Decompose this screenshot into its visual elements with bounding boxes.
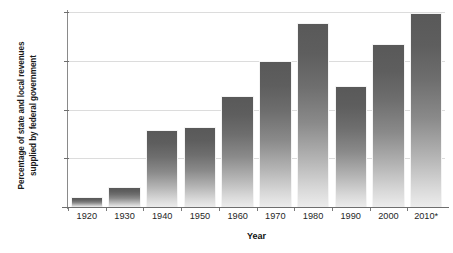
x-tick-mark	[219, 208, 220, 211]
bar[interactable]	[71, 197, 103, 207]
bar[interactable]	[221, 96, 253, 207]
x-tick-mark	[181, 208, 182, 211]
y-tick-mark	[64, 61, 69, 62]
bars-layer	[68, 12, 445, 207]
x-tick-mark	[143, 208, 144, 211]
x-tick-label: 2000	[370, 211, 408, 221]
x-tick-label: 1920	[68, 211, 106, 221]
x-tick-label: 1950	[181, 211, 219, 221]
bar[interactable]	[372, 44, 404, 207]
x-tick-mark	[407, 208, 408, 211]
x-tick-mark	[106, 208, 107, 211]
x-tick-label: 1970	[257, 211, 295, 221]
x-tick-label: 1980	[294, 211, 332, 221]
y-axis-title: Percentage of state and local revenues s…	[16, 16, 39, 216]
bar[interactable]	[410, 13, 442, 207]
y-axis-title-line-1: Percentage of state and local revenues	[16, 16, 28, 216]
y-tick-mark	[64, 158, 69, 159]
x-tick-label: 1960	[219, 211, 257, 221]
x-axis-title: Year	[68, 231, 445, 241]
bar[interactable]	[297, 23, 329, 207]
x-tick-label: 1930	[106, 211, 144, 221]
bar[interactable]	[146, 130, 178, 207]
bar[interactable]	[108, 187, 140, 207]
bar-chart: Percentage of state and local revenues s…	[0, 0, 453, 253]
x-tick-mark	[257, 208, 258, 211]
x-axis-line	[62, 207, 449, 208]
y-tick-mark	[64, 12, 69, 13]
bar[interactable]	[259, 61, 291, 207]
x-tick-mark	[294, 208, 295, 211]
x-tick-label: 1940	[143, 211, 181, 221]
x-tick-mark	[332, 208, 333, 211]
y-tick-mark	[64, 110, 69, 111]
x-tick-mark	[68, 208, 69, 211]
y-axis-title-line-2: supplied by federal government	[27, 16, 39, 216]
x-tick-label: 2010*	[407, 211, 445, 221]
bar[interactable]	[184, 127, 216, 207]
bar[interactable]	[335, 86, 367, 207]
x-tick-mark	[370, 208, 371, 211]
x-tick-label: 1990	[332, 211, 370, 221]
